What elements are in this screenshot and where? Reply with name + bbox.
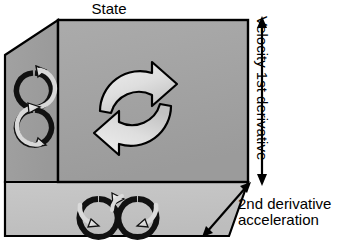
label-state: State	[0, 1, 218, 17]
vertical-axis-arrowhead-bottom	[257, 174, 267, 186]
label-2nd-derivative-acceleration: 2nd derivative acceleration	[238, 196, 331, 228]
label-accel-line2: acceleration	[238, 212, 331, 228]
label-velocity-1st-derivative: Velocity 1st derivative	[254, 16, 270, 160]
label-accel-line1: 2nd derivative	[238, 196, 331, 212]
